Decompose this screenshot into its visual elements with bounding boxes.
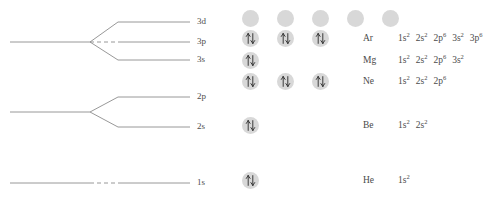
orbital-occupancy-table: Ar1s22s22p63s23p6Mg1s22s22p63s2Ne1s22s22… (230, 0, 475, 205)
diagram-lines (0, 0, 240, 205)
orbital-circle-empty (242, 10, 259, 27)
level-line (90, 22, 118, 42)
electron-pair-arrows (277, 73, 294, 90)
config-electron-count: 6 (443, 31, 446, 38)
level-label-2s: 2s (197, 122, 205, 131)
config-orbital: 2p (433, 55, 443, 65)
electron-configuration: 1s2 (398, 175, 416, 185)
electron-configuration: 1s22s22p63s2 (398, 55, 470, 65)
config-term: 3s2 (452, 33, 464, 43)
config-term: 2s2 (416, 120, 428, 130)
config-orbital: 3p (470, 33, 480, 43)
electron-pair-arrows (277, 30, 294, 47)
orbital-circle-filled (312, 30, 329, 47)
config-electron-count: 2 (406, 53, 409, 60)
electron-pair-arrows (312, 30, 329, 47)
level-line (90, 112, 118, 127)
config-term: 2p6 (433, 76, 446, 86)
element-symbol: Ne (363, 76, 374, 86)
config-electron-count: 6 (443, 74, 446, 81)
orbital-row (230, 10, 475, 28)
orbital-circle-filled (277, 30, 294, 47)
config-electron-count: 2 (424, 74, 427, 81)
orbital-circle-filled (242, 117, 259, 134)
element-symbol: Mg (363, 55, 376, 65)
config-term: 3p6 (470, 33, 483, 43)
level-line (90, 42, 118, 60)
orbital-circle-empty (312, 10, 329, 27)
config-term: 1s2 (398, 33, 410, 43)
orbital-circle-filled (242, 73, 259, 90)
electron-pair-arrows (242, 172, 259, 189)
config-electron-count: 2 (424, 118, 427, 125)
config-term: 3s2 (452, 55, 464, 65)
config-electron-count: 6 (443, 53, 446, 60)
config-orbital: 2s (416, 76, 424, 86)
config-electron-count: 2 (424, 53, 427, 60)
level-label-1s: 1s (197, 178, 205, 187)
orbital-circle-filled (242, 30, 259, 47)
orbital-circle-empty (382, 10, 399, 27)
config-electron-count: 2 (406, 31, 409, 38)
energy-level-diagram: 3d3p3s2p2s1s (0, 0, 240, 205)
config-orbital: 2s (416, 33, 424, 43)
config-term: 2s2 (416, 33, 428, 43)
electron-configuration: 1s22s22p6 (398, 76, 452, 86)
orbital-circle-empty (277, 10, 294, 27)
electron-configuration: 1s22s2 (398, 120, 433, 130)
electron-pair-arrows (242, 117, 259, 134)
config-term: 1s2 (398, 120, 410, 130)
config-term: 2s2 (416, 76, 428, 86)
orbital-row: Ar1s22s22p63s23p6 (230, 30, 475, 48)
element-symbol: He (363, 175, 374, 185)
level-label-3d: 3d (197, 17, 206, 26)
config-term: 2p6 (433, 33, 446, 43)
config-term: 1s2 (398, 55, 410, 65)
orbital-row: Be1s22s2 (230, 117, 475, 135)
config-electron-count: 2 (406, 173, 409, 180)
config-electron-count: 2 (461, 31, 464, 38)
config-orbital: 3s (452, 33, 460, 43)
orbital-circle-filled (277, 73, 294, 90)
orbital-circle-filled (312, 73, 329, 90)
orbital-circle-filled (242, 52, 259, 69)
level-label-3s: 3s (197, 55, 205, 64)
orbital-circle-empty (347, 10, 364, 27)
electron-pair-arrows (242, 30, 259, 47)
config-orbital: 3s (452, 55, 460, 65)
orbital-row: Ne1s22s22p6 (230, 73, 475, 91)
config-term: 1s2 (398, 76, 410, 86)
config-electron-count: 2 (461, 53, 464, 60)
config-electron-count: 2 (406, 74, 409, 81)
element-symbol: Ar (363, 33, 373, 43)
config-term: 1s2 (398, 175, 410, 185)
config-orbital: 2p (433, 33, 443, 43)
config-electron-count: 6 (479, 31, 482, 38)
electron-pair-arrows (242, 73, 259, 90)
config-orbital: 2p (433, 76, 443, 86)
orbital-row: He1s2 (230, 172, 475, 190)
config-electron-count: 2 (424, 31, 427, 38)
electron-pair-arrows (312, 73, 329, 90)
level-label-3p: 3p (197, 37, 206, 46)
electron-pair-arrows (242, 52, 259, 69)
electron-configuration: 1s22s22p63s23p6 (398, 33, 487, 43)
config-orbital: 2s (416, 120, 424, 130)
orbital-row: Mg1s22s22p63s2 (230, 52, 475, 70)
level-label-2p: 2p (197, 92, 206, 101)
config-electron-count: 2 (406, 118, 409, 125)
level-line (90, 97, 118, 112)
config-term: 2s2 (416, 55, 428, 65)
config-orbital: 2s (416, 55, 424, 65)
element-symbol: Be (363, 120, 374, 130)
orbital-circle-filled (242, 172, 259, 189)
config-term: 2p6 (433, 55, 446, 65)
